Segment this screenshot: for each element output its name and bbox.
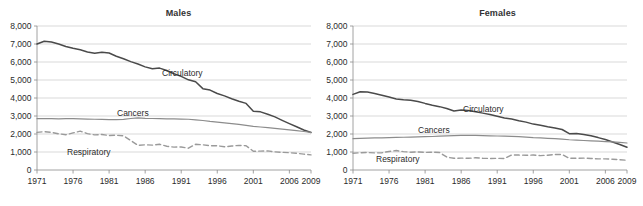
series-line-circulatory bbox=[353, 92, 627, 148]
y-tick-label: 4,000 bbox=[326, 93, 348, 103]
series-label-circulatory: Circulatory bbox=[463, 104, 504, 114]
x-tick-label: 1981 bbox=[416, 176, 435, 186]
x-tick-label: 2001 bbox=[244, 176, 263, 186]
x-tick-label: 2006 bbox=[280, 176, 299, 186]
y-tick-label: 5,000 bbox=[326, 75, 348, 85]
x-tick-label: 1981 bbox=[100, 176, 119, 186]
series-label-respiratory: Respiratory bbox=[67, 147, 111, 157]
y-tick-label: 0 bbox=[343, 165, 348, 175]
series-label-circulatory: Circulatory bbox=[162, 68, 203, 78]
series-line-cancers bbox=[353, 135, 627, 143]
x-tick-label: 1976 bbox=[380, 176, 399, 186]
x-tick-label: 1986 bbox=[452, 176, 471, 186]
x-tick-label: 2009 bbox=[302, 176, 321, 186]
series-label-cancers: Cancers bbox=[418, 125, 450, 135]
x-tick-label: 1996 bbox=[524, 176, 543, 186]
x-tick-label: 2009 bbox=[618, 176, 637, 186]
y-tick-label: 1,000 bbox=[10, 147, 32, 157]
y-tick-label: 8,000 bbox=[10, 21, 32, 31]
x-tick-label: 1986 bbox=[136, 176, 155, 186]
y-tick-label: 7,000 bbox=[10, 39, 32, 49]
y-tick-label: 2,000 bbox=[326, 129, 348, 139]
y-tick-label: 3,000 bbox=[10, 111, 32, 121]
series-label-cancers: Cancers bbox=[117, 108, 149, 118]
series-line-cancers bbox=[37, 118, 311, 133]
plot-area-males: 01,0002,0003,0004,0005,0006,0007,0008,00… bbox=[0, 0, 321, 206]
y-tick-label: 1,000 bbox=[326, 147, 348, 157]
x-tick-label: 1971 bbox=[28, 176, 47, 186]
chart-panel-females: Females 01,0002,0003,0004,0005,0006,0007… bbox=[322, 0, 643, 206]
y-tick-label: 2,000 bbox=[10, 129, 32, 139]
x-tick-label: 2001 bbox=[560, 176, 579, 186]
y-tick-label: 3,000 bbox=[326, 111, 348, 121]
x-tick-label: 1991 bbox=[172, 176, 191, 186]
y-tick-label: 0 bbox=[27, 165, 32, 175]
x-tick-label: 1971 bbox=[344, 176, 363, 186]
series-label-respiratory: Respiratory bbox=[376, 154, 420, 164]
x-tick-label: 2006 bbox=[596, 176, 615, 186]
chart-panel-males: Males 01,0002,0003,0004,0005,0006,0007,0… bbox=[0, 0, 321, 206]
x-tick-label: 1996 bbox=[208, 176, 227, 186]
y-tick-label: 6,000 bbox=[326, 57, 348, 67]
x-tick-label: 1991 bbox=[488, 176, 507, 186]
y-tick-label: 8,000 bbox=[326, 21, 348, 31]
plot-area-females: 01,0002,0003,0004,0005,0006,0007,0008,00… bbox=[322, 0, 643, 206]
x-tick-label: 1976 bbox=[64, 176, 83, 186]
dual-line-chart-figure: Males 01,0002,0003,0004,0005,0006,0007,0… bbox=[0, 0, 643, 206]
y-tick-label: 5,000 bbox=[10, 75, 32, 85]
y-tick-label: 4,000 bbox=[10, 93, 32, 103]
y-tick-label: 7,000 bbox=[326, 39, 348, 49]
y-tick-label: 6,000 bbox=[10, 57, 32, 67]
